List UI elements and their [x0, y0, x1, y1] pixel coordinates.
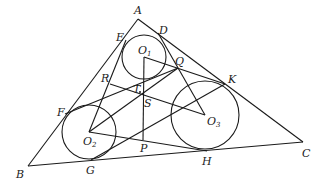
- diagram-canvas: ABCDEFGHKQRTSPO1O2O3: [0, 0, 327, 185]
- label-b: B: [15, 168, 24, 181]
- label-r: R: [100, 72, 109, 85]
- segment-c-a: [138, 19, 303, 142]
- label-k: K: [227, 73, 237, 86]
- segment-b-c: [28, 142, 303, 166]
- label-h: H: [201, 155, 212, 168]
- label-e: E: [115, 31, 124, 44]
- label-g: G: [86, 164, 95, 177]
- label-s: S: [144, 97, 152, 110]
- label-o1: O1: [138, 44, 152, 58]
- label-c: C: [302, 147, 311, 160]
- segment-d-o3: [158, 33, 205, 115]
- segment-o2-h: [89, 132, 207, 151]
- label-p: P: [139, 142, 148, 155]
- label-o2: O2: [83, 135, 97, 149]
- label-f: F: [56, 106, 65, 119]
- label-d: D: [158, 24, 168, 37]
- segment-r-o3: [110, 84, 205, 115]
- label-o3: O3: [207, 115, 221, 129]
- label-a: A: [133, 4, 142, 17]
- segment-f-q: [65, 68, 178, 114]
- geometry-diagram: ABCDEFGHKQRTSPO1O2O3: [0, 0, 327, 185]
- label-q: Q: [175, 55, 184, 68]
